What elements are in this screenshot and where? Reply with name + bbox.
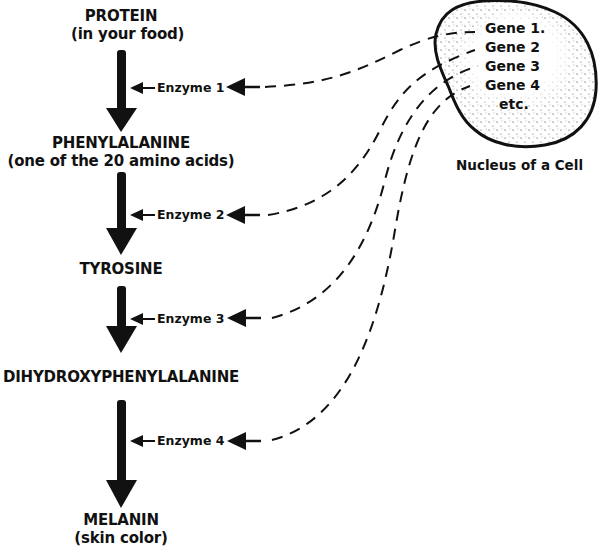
dashed-connectors xyxy=(265,32,478,440)
gene-2-label: Gene 2 xyxy=(485,39,540,55)
step-detail: (in your food) xyxy=(71,25,171,43)
enzyme-3-label: Enzyme 3 xyxy=(157,311,224,326)
step-melanin: MELANIN (skin color) xyxy=(71,511,171,547)
step-name: MELANIN xyxy=(71,511,171,529)
step-phenylalanine: PHENYLALANINE (one of the 20 amino acids… xyxy=(0,134,242,170)
step-tyrosine: TYROSINE xyxy=(71,260,171,278)
pathway-arrows xyxy=(106,50,137,508)
etc-label: etc. xyxy=(499,96,529,112)
nucleus-caption: Nucleus of a Cell xyxy=(456,157,583,173)
step-name: PROTEIN xyxy=(71,7,171,25)
step-detail: (skin color) xyxy=(71,529,171,547)
enzyme-4-label: Enzyme 4 xyxy=(157,433,224,448)
gene-1-label: Gene 1. xyxy=(485,20,545,36)
gene-4-label: Gene 4 xyxy=(485,77,540,93)
gene-3-label: Gene 3 xyxy=(485,58,540,74)
enzyme-2-label: Enzyme 2 xyxy=(157,207,224,222)
step-name: DIHYDROXYPHENYLALANINE xyxy=(0,368,242,386)
step-name: PHENYLALANINE xyxy=(0,134,242,152)
step-protein: PROTEIN (in your food) xyxy=(71,7,171,43)
step-dihydroxyphenylalanine: DIHYDROXYPHENYLALANINE xyxy=(0,368,242,386)
enzyme-1-label: Enzyme 1 xyxy=(157,80,224,95)
step-detail: (one of the 20 amino acids) xyxy=(0,152,242,170)
step-name: TYROSINE xyxy=(71,260,171,278)
